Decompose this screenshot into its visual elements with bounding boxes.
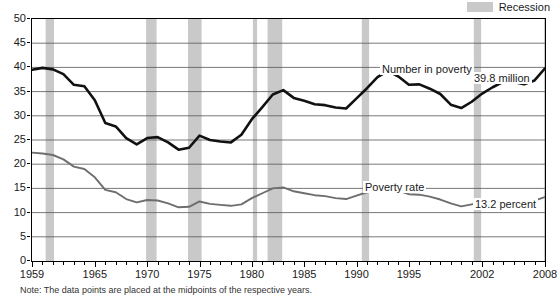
x-tick-minor — [63, 262, 64, 265]
x-tick-minor — [451, 262, 452, 265]
y-tick-label: 20 — [14, 158, 26, 169]
x-tick-minor — [273, 262, 274, 265]
y-tick-mark — [27, 236, 30, 237]
plot-svg — [32, 19, 545, 261]
x-tick-minor — [514, 262, 515, 265]
x-tick-label: 2002 — [470, 268, 494, 280]
x-tick-minor — [231, 262, 232, 265]
series-line-number-in-poverty — [32, 68, 545, 150]
recession-legend-swatch — [467, 2, 493, 12]
x-tick-major — [32, 262, 33, 267]
x-tick-minor — [116, 262, 117, 265]
x-tick-minor — [336, 262, 337, 265]
y-tick-label: 35 — [14, 85, 26, 96]
x-tick-minor — [346, 262, 347, 265]
plot-inner — [32, 19, 545, 261]
y-tick-mark — [27, 42, 30, 43]
x-tick-label: 1959 — [20, 268, 44, 280]
poverty-rate-value: 13.2 percent — [473, 198, 538, 210]
x-tick-major — [357, 262, 358, 267]
x-tick-minor — [315, 262, 316, 265]
poverty-rate-label: Poverty rate — [363, 181, 426, 193]
y-tick-mark — [27, 91, 30, 92]
y-tick-mark — [27, 212, 30, 213]
x-tick-minor — [524, 262, 525, 265]
x-tick-minor — [210, 262, 211, 265]
x-tick-major — [545, 262, 546, 267]
x-tick-minor — [241, 262, 242, 265]
number-in-poverty-label: Number in poverty — [380, 63, 474, 75]
x-tick-minor — [42, 262, 43, 265]
x-tick-minor — [503, 262, 504, 265]
x-tick-minor — [137, 262, 138, 265]
x-tick-minor — [535, 262, 536, 265]
y-tick-mark — [27, 66, 30, 67]
x-tick-major — [409, 262, 410, 267]
recession-legend-label: Recession — [499, 1, 550, 13]
y-tick-label: 30 — [14, 109, 26, 120]
x-tick-minor — [53, 262, 54, 265]
x-tick-minor — [220, 262, 221, 265]
x-tick-minor — [262, 262, 263, 265]
x-tick-minor — [440, 262, 441, 265]
x-axis-labels: 1959196519701975198019851990199520022008 — [0, 266, 554, 282]
x-tick-minor — [398, 262, 399, 265]
y-tick-mark — [27, 115, 30, 116]
x-tick-label: 1990 — [344, 268, 368, 280]
y-tick-mark — [27, 260, 30, 261]
x-tick-minor — [105, 262, 106, 265]
x-tick-label: 1965 — [83, 268, 107, 280]
x-tick-label: 1980 — [240, 268, 264, 280]
x-tick-minor — [325, 262, 326, 265]
x-tick-minor — [430, 262, 431, 265]
plot-area — [31, 18, 546, 262]
y-tick-label: 50 — [14, 13, 26, 24]
y-tick-label: 10 — [14, 206, 26, 217]
x-tick-minor — [419, 262, 420, 265]
x-tick-minor — [294, 262, 295, 265]
x-tick-minor — [126, 262, 127, 265]
y-tick-mark — [27, 139, 30, 140]
number-in-poverty-value: 39.8 million — [472, 72, 532, 84]
y-tick-label: 25 — [14, 134, 26, 145]
x-tick-major — [200, 262, 201, 267]
x-tick-minor — [493, 262, 494, 265]
x-tick-minor — [158, 262, 159, 265]
x-tick-minor — [179, 262, 180, 265]
y-tick-label: 5 — [20, 230, 26, 241]
x-tick-major — [482, 262, 483, 267]
y-tick-mark — [27, 163, 30, 164]
y-tick-label: 40 — [14, 61, 26, 72]
x-tick-minor — [388, 262, 389, 265]
x-tick-minor — [461, 262, 462, 265]
x-tick-minor — [189, 262, 190, 265]
x-tick-minor — [472, 262, 473, 265]
x-tick-minor — [367, 262, 368, 265]
y-tick-label: 15 — [14, 182, 26, 193]
legend: Recession — [467, 1, 550, 13]
x-tick-major — [95, 262, 96, 267]
x-tick-minor — [377, 262, 378, 265]
x-tick-label: 1995 — [397, 268, 421, 280]
series-line-poverty-rate — [32, 153, 545, 208]
x-tick-minor — [84, 262, 85, 265]
y-axis-labels: 05101520253035404550 — [0, 0, 30, 264]
x-tick-label: 1970 — [135, 268, 159, 280]
x-tick-minor — [168, 262, 169, 265]
x-tick-minor — [283, 262, 284, 265]
x-tick-major — [304, 262, 305, 267]
y-tick-label: 45 — [14, 37, 26, 48]
x-tick-minor — [74, 262, 75, 265]
x-tick-label: 1985 — [292, 268, 316, 280]
x-tick-label: 2008 — [533, 268, 557, 280]
y-tick-mark — [27, 18, 30, 19]
x-tick-major — [252, 262, 253, 267]
x-tick-label: 1975 — [187, 268, 211, 280]
y-tick-mark — [27, 187, 30, 188]
y-tick-label: 0 — [20, 255, 26, 266]
chart-note: Note: The data points are placed at the … — [20, 285, 312, 296]
x-tick-major — [147, 262, 148, 267]
